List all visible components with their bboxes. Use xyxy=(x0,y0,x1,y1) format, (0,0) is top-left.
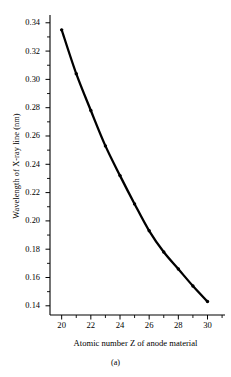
x-axis-tick-label: 24 xyxy=(108,321,132,330)
data-point-marker xyxy=(104,144,107,147)
y-axis-tick-label: 0.26 xyxy=(6,131,40,140)
y-axis-tick-label: 0.16 xyxy=(6,273,40,282)
data-point-marker xyxy=(133,202,136,205)
data-point-marker xyxy=(177,267,180,270)
x-axis-tick-label: 22 xyxy=(79,321,103,330)
data-point-marker xyxy=(206,300,209,303)
y-axis-tick-label: 0.32 xyxy=(6,47,40,56)
data-point-marker xyxy=(162,250,165,253)
y-axis-tick-label: 0.14 xyxy=(6,301,40,310)
y-axis-tick-label: 0.18 xyxy=(6,245,40,254)
x-axis-title: Atomic number Z of anode material xyxy=(40,338,231,348)
data-point-marker xyxy=(191,284,194,287)
y-axis-tick-label: 0.20 xyxy=(6,216,40,225)
figure-panel: Wavelength of X-ray line (nm) 0.140.160.… xyxy=(0,0,231,377)
y-axis-tick-label: 0.24 xyxy=(6,160,40,169)
figure-caption: (a) xyxy=(0,358,231,367)
y-axis-tick-label: 0.22 xyxy=(6,188,40,197)
data-series-line xyxy=(62,30,208,302)
data-point-marker xyxy=(60,28,63,31)
x-axis-tick-label: 30 xyxy=(196,321,220,330)
x-axis-tick-label: 20 xyxy=(50,321,74,330)
data-point-marker xyxy=(147,229,150,232)
x-axis-tick-label: 26 xyxy=(137,321,161,330)
y-axis-tick-label: 0.30 xyxy=(6,75,40,84)
x-axis-tick-label: 28 xyxy=(166,321,190,330)
y-axis-tick-label: 0.28 xyxy=(6,103,40,112)
data-point-marker xyxy=(118,174,121,177)
y-axis-tick-label: 0.34 xyxy=(6,18,40,27)
data-point-marker xyxy=(75,72,78,75)
data-point-marker xyxy=(89,109,92,112)
